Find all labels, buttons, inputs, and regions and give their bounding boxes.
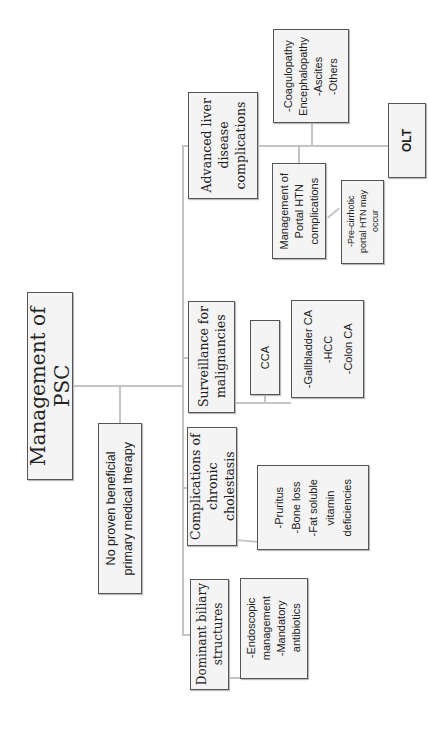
connector-to-portal-htn (298, 145, 300, 163)
node-olt-label: OLT (400, 129, 414, 152)
node-portal-htn-label: Management of Portal HTN complications (277, 173, 322, 249)
node-pre-cirrhotic: -Pre-cirrhotic portal HTN may occur (341, 180, 384, 264)
node-pre-cirrhotic-label: -Pre-cirrhotic portal HTN may occur (345, 190, 381, 253)
connector-root-to-spine (73, 385, 183, 387)
connector-surveillance-branch (235, 402, 291, 404)
connector-to-dominant-strictures (182, 634, 190, 636)
node-surveillance: Surveillance for malignancies (188, 301, 235, 413)
node-dominant-strictures: Dominant biliary structures (190, 579, 229, 690)
node-root-label: Management of PSC (27, 293, 73, 479)
node-cholestasis-list: -Pruritus -Bone loss -Fat soluble vitami… (257, 465, 369, 550)
connector-to-cca (264, 395, 266, 403)
node-cholestasis-list-label: -Pruritus -Bone loss -Fat soluble vitami… (271, 479, 356, 536)
node-strictures-list: -Endoscopic management -Mandatory antibi… (240, 578, 308, 679)
node-liver-list: -Coagulopathy Encephalopathy -Ascites -O… (273, 29, 349, 123)
node-chronic-cholestasis-label: Complications of chronic cholestasis (187, 428, 237, 545)
node-surveillance-label: Surveillance for malignancies (195, 306, 229, 407)
connector-spine (182, 145, 184, 635)
node-cca-label: CCA (259, 346, 271, 369)
node-liver-list-label: -Coagulopathy Encephalopathy -Ascites -O… (281, 37, 341, 116)
connector-to-liver-list (311, 123, 313, 145)
connector-portal-to-precirrhotic (327, 207, 340, 218)
connector-to-no-therapy (119, 385, 121, 423)
connector-to-cholestasis-list (237, 539, 257, 543)
node-dominant-strictures-label: Dominant biliary structures (194, 583, 226, 685)
node-other-malignancies: -Gallbladder CA -HCC -Colon CA (291, 300, 364, 398)
node-no-therapy-label: No proven beneficial primary medical the… (103, 442, 137, 575)
node-chronic-cholestasis: Complications of chronic cholestasis (187, 427, 237, 546)
node-strictures-list-label: -Endoscopic management -Mandatory antibi… (244, 596, 304, 660)
node-olt: OLT (388, 103, 426, 178)
node-portal-htn: Management of Portal HTN complications (272, 163, 326, 259)
node-advanced-liver: Advanced liver disease complications (188, 92, 258, 199)
connector-to-strictures-list (229, 677, 240, 679)
node-cca: CCA (250, 320, 280, 395)
node-advanced-liver-label: Advanced liver disease complications (198, 98, 249, 192)
node-other-malignancies-label: -Gallbladder CA -HCC -Colon CA (298, 310, 358, 388)
connector-liver-branch (258, 145, 388, 147)
node-no-therapy: No proven beneficial primary medical the… (98, 423, 142, 594)
node-root: Management of PSC (27, 292, 73, 480)
